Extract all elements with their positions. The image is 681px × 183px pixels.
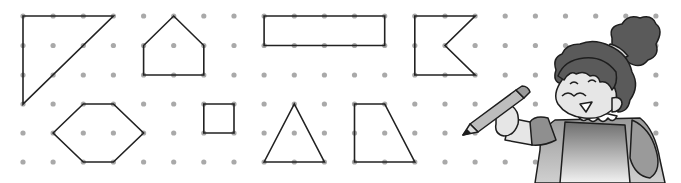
- grid-dot: [141, 101, 146, 106]
- long-rectangle: [264, 16, 385, 46]
- grid-dot: [653, 101, 658, 106]
- apron: [560, 122, 630, 183]
- grid-dot: [231, 13, 236, 18]
- grid-dot: [653, 130, 658, 135]
- grid-dot: [292, 130, 297, 135]
- grid-dot: [503, 72, 508, 77]
- grid-dot: [653, 13, 658, 18]
- grid-dot: [81, 72, 86, 77]
- grid-dot: [81, 130, 86, 135]
- grid-dot: [533, 101, 538, 106]
- grid-dot: [382, 130, 387, 135]
- grid-dot: [382, 72, 387, 77]
- grid-dot: [262, 101, 267, 106]
- grid-dot: [231, 43, 236, 48]
- grid-dot: [322, 72, 327, 77]
- right-triangle: [23, 16, 113, 104]
- hexagon: [53, 104, 144, 162]
- grid-dot: [51, 43, 56, 48]
- grid-dot: [503, 159, 508, 164]
- grid-dot: [201, 159, 206, 164]
- flag-concave-pentagon: [415, 16, 475, 75]
- grid-dot: [533, 43, 538, 48]
- grid-dot: [473, 101, 478, 106]
- grid-dot: [171, 43, 176, 48]
- grid-dot: [111, 43, 116, 48]
- small-square: [204, 104, 234, 133]
- grid-dot: [563, 13, 568, 18]
- grid-dot: [51, 159, 56, 164]
- grid-dot: [412, 101, 417, 106]
- shapes-layer: [23, 16, 475, 162]
- grid-dot: [231, 159, 236, 164]
- grid-dot: [352, 72, 357, 77]
- grid-dot: [412, 130, 417, 135]
- grid-dot: [171, 130, 176, 135]
- grid-dot: [111, 72, 116, 77]
- grid-dot: [322, 101, 327, 106]
- grid-dot: [231, 72, 236, 77]
- grid-dot: [171, 159, 176, 164]
- grid-dot: [533, 72, 538, 77]
- left-sleeve: [528, 117, 556, 145]
- grid-dot: [262, 72, 267, 77]
- grid-dot: [20, 130, 25, 135]
- grid-dot: [593, 13, 598, 18]
- grid-dot: [442, 101, 447, 106]
- grid-dot: [292, 72, 297, 77]
- grid-dot: [533, 13, 538, 18]
- grid-dot: [322, 130, 327, 135]
- grid-dot: [201, 13, 206, 18]
- grid-dot: [473, 43, 478, 48]
- grid-dot: [20, 159, 25, 164]
- grid-dot: [503, 13, 508, 18]
- grid-dot: [141, 13, 146, 18]
- dot-grid-worksheet: [0, 0, 681, 183]
- grid-dot: [111, 130, 116, 135]
- grid-dot: [442, 130, 447, 135]
- grid-dot: [141, 159, 146, 164]
- grid-dot: [653, 72, 658, 77]
- grid-dot: [51, 101, 56, 106]
- grid-dot: [262, 130, 267, 135]
- grid-dot: [171, 101, 176, 106]
- grid-dot: [503, 43, 508, 48]
- grid-dot: [473, 159, 478, 164]
- girl-illustration: [463, 17, 665, 183]
- grid-dot: [442, 159, 447, 164]
